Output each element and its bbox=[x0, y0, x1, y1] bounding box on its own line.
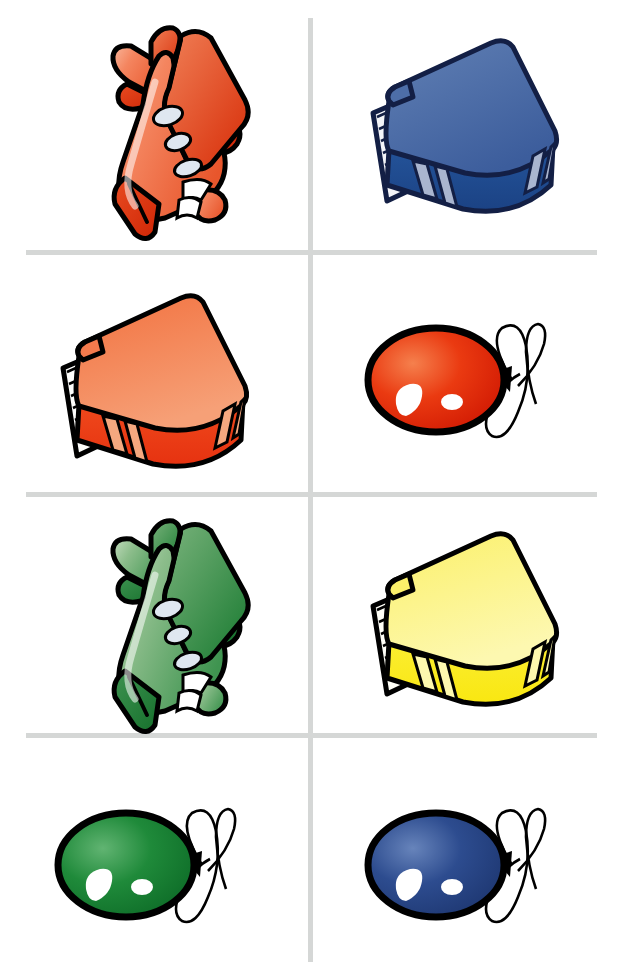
picture-grid-page bbox=[0, 0, 621, 980]
horizontal-divider-1 bbox=[26, 250, 597, 255]
balloon-highlight-small bbox=[441, 879, 463, 895]
cell-blue-book[interactable] bbox=[365, 35, 580, 220]
orange-airplane-icon bbox=[55, 12, 265, 240]
cell-yellow-book[interactable] bbox=[365, 528, 580, 713]
cell-red-book[interactable] bbox=[55, 290, 270, 475]
red-book-icon bbox=[55, 290, 270, 475]
blue-balloon-icon bbox=[360, 785, 575, 950]
green-airplane-icon bbox=[55, 505, 265, 733]
yellow-book-icon bbox=[365, 528, 580, 713]
balloon-highlight-small bbox=[131, 879, 153, 895]
cell-red-balloon[interactable] bbox=[360, 300, 575, 465]
horizontal-divider-3 bbox=[26, 733, 597, 738]
blue-book-icon bbox=[365, 35, 580, 220]
cell-orange-airplane[interactable] bbox=[55, 12, 265, 240]
horizontal-divider-2 bbox=[26, 492, 597, 497]
cell-blue-balloon[interactable] bbox=[360, 785, 575, 950]
cell-green-balloon[interactable] bbox=[50, 785, 265, 950]
vertical-divider bbox=[308, 18, 313, 962]
balloon-highlight-small bbox=[441, 394, 463, 410]
cell-green-airplane[interactable] bbox=[55, 505, 265, 733]
green-balloon-icon bbox=[50, 785, 265, 950]
red-balloon-icon bbox=[360, 300, 575, 465]
